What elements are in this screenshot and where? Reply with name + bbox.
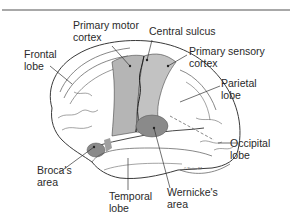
label-line: Primary sensory: [189, 45, 265, 57]
label-line: lobe: [24, 60, 44, 72]
label-brocas-area: Broca'sarea: [37, 165, 72, 188]
label-line: Broca's: [37, 164, 72, 176]
label-line: lobe: [230, 149, 250, 161]
label-wernickes-area: Wernicke'sarea: [167, 187, 218, 210]
label-line: lobe: [109, 202, 129, 214]
artist-signature: © Netter 97: [184, 167, 202, 171]
label-primary-motor-cortex: Primary motorcortex: [73, 20, 139, 43]
label-line: lobe: [221, 89, 241, 101]
label-frontal-lobe: Frontallobe: [24, 49, 57, 72]
label-line: Frontal: [24, 48, 57, 60]
label-line: cortex: [189, 57, 218, 69]
wernicke-area-region: [136, 115, 168, 137]
label-line: Temporal: [109, 190, 152, 202]
label-line: Parietal: [221, 77, 257, 89]
label-temporal-lobe: Temporallobe: [109, 191, 152, 214]
label-occipital-lobe: Occipitallobe: [230, 138, 270, 161]
label-line: Occipital: [230, 137, 270, 149]
label-line: area: [37, 176, 58, 188]
label-line: cortex: [73, 31, 102, 43]
label-parietal-lobe: Parietallobe: [221, 78, 257, 101]
label-primary-sensory-cortex: Primary sensorycortex: [189, 46, 265, 69]
label-line: Primary motor: [73, 19, 139, 31]
label-line: area: [167, 198, 188, 210]
label-central-sulcus: Central sulcus: [149, 26, 216, 38]
label-line: Wernicke's: [167, 186, 218, 198]
